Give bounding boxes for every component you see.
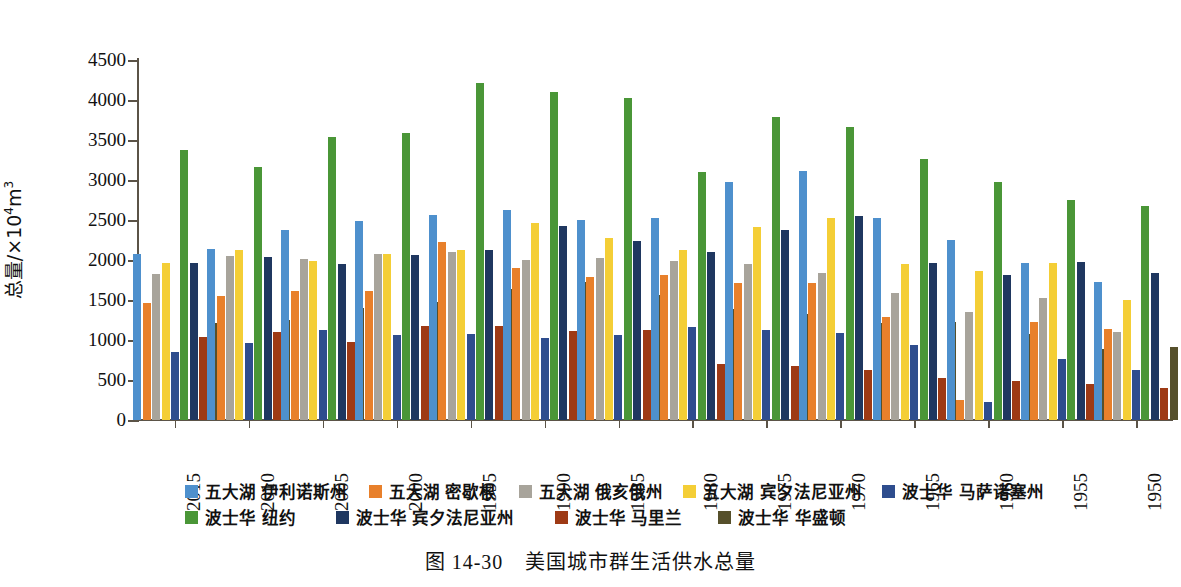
bar [605,238,613,420]
bar [1170,347,1178,420]
bar [643,330,651,420]
bar [938,378,946,420]
y-tick-label: 2000 [88,249,126,271]
x-tick-mark [323,421,325,428]
bar [133,254,141,420]
bar [1039,298,1047,420]
bar [994,182,1002,420]
bar [355,221,363,420]
legend-item[interactable]: 五大湖 宾夕法尼亚州 [683,479,862,503]
bar [614,335,622,420]
bar [717,364,725,420]
legend-swatch [185,511,198,524]
bar [522,260,530,420]
x-tick-mark [914,421,916,428]
legend-item[interactable]: 五大湖 密歇根 [369,479,497,503]
bar [882,317,890,420]
x-tick-label: 1950 [1144,473,1166,511]
bar [734,283,742,420]
legend-swatch [185,485,198,498]
bar [338,264,346,420]
x-tick-mark [471,421,473,428]
bar [207,249,215,420]
bar [1094,282,1102,420]
bar [421,326,429,420]
bar [1012,381,1020,420]
bar [347,342,355,420]
legend: 五大湖 伊利诺斯州五大湖 密歇根五大湖 俄亥俄州五大湖 宾夕法尼亚州波士华 马萨… [185,478,1115,530]
bar [190,263,198,420]
bar [300,259,308,420]
bar [448,252,456,420]
bar [744,264,752,420]
legend-item[interactable]: 五大湖 伊利诺斯州 [185,479,347,503]
legend-swatch [519,485,532,498]
legend-label: 波士华 马萨诸塞州 [902,479,1044,503]
bar [586,277,594,420]
bar [328,137,336,420]
bar-group [873,60,958,420]
legend-label: 五大湖 伊利诺斯州 [205,479,347,503]
x-tick-mark [692,421,694,428]
legend-label: 波士华 华盛顿 [738,505,846,529]
y-tick-label: 1000 [88,329,126,351]
plot-area [138,60,1173,420]
bar [217,296,225,420]
bar [651,218,659,420]
bar [864,370,872,420]
bar-group [133,60,218,420]
bar-group [281,60,366,420]
bar [1049,263,1057,420]
bar [660,275,668,420]
bar [799,171,807,420]
legend-item[interactable]: 波士华 马里兰 [555,505,683,529]
bar [624,98,632,420]
bar-group [651,60,736,420]
legend-item[interactable]: 波士华 华盛顿 [718,505,846,529]
y-tick-label: 500 [98,369,127,391]
bar [1141,206,1149,420]
legend-item[interactable]: 波士华 纽约 [185,505,296,529]
legend-label: 波士华 纽约 [205,505,296,529]
legend-item[interactable]: 波士华 马萨诸塞州 [882,479,1044,503]
x-tick-mark [545,421,547,428]
bar [1151,273,1159,420]
bar [781,230,789,420]
legend-swatch [369,485,382,498]
x-tick-mark [988,421,990,428]
bar [411,255,419,420]
bar [688,327,696,420]
bar [846,127,854,420]
bar [1021,263,1029,420]
x-tick-mark [249,421,251,428]
y-tick-label: 2500 [88,209,126,231]
bar [984,402,992,420]
legend-item[interactable]: 五大湖 俄亥俄州 [519,479,664,503]
bar [569,331,577,420]
x-tick-mark [840,421,842,428]
y-tick-label: 4500 [88,49,126,71]
y-axis-labels: 050010001500200025003000350040004500 [0,0,138,587]
bar [910,345,918,420]
figure-container: 总量/×104m3 050010001500200025003000350040… [0,0,1181,587]
bar [1113,332,1121,420]
bar [273,332,281,420]
bar [559,226,567,420]
bar [550,92,558,420]
bar-group [1094,60,1179,420]
bar [264,257,272,420]
y-tick-label: 4000 [88,89,126,111]
bar [281,230,289,420]
legend-item[interactable]: 波士华 宾夕法尼亚州 [336,505,515,529]
bar [503,210,511,420]
bar-group [1021,60,1106,420]
bar-group [725,60,810,420]
bar [1160,388,1168,420]
legend-label: 波士华 宾夕法尼亚州 [356,505,515,529]
figure-caption: 图 14-30 美国城市群生活供水总量 [0,546,1181,575]
bar [457,250,465,420]
bar-group [947,60,1032,420]
legend-swatch [683,485,696,498]
bar [1132,370,1140,420]
bar [1030,322,1038,420]
